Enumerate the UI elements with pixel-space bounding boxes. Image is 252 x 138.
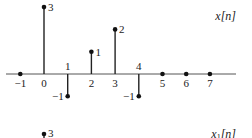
stem-dot	[65, 94, 70, 99]
n-tick-label: 0	[41, 77, 47, 89]
n-tick-label: 2	[89, 77, 95, 89]
stem-dot	[160, 72, 165, 77]
stem-dot	[89, 49, 94, 54]
stem-dot	[137, 94, 142, 99]
stem-dot	[18, 72, 23, 77]
value-label: −1	[52, 90, 64, 102]
value-label: 3	[48, 127, 54, 138]
stem-dot	[208, 72, 213, 77]
stem-dot	[184, 72, 189, 77]
n-tick-label: 6	[183, 77, 189, 89]
n-tick-label: −1	[14, 77, 26, 89]
stem-dot	[42, 132, 47, 137]
stem-dot	[42, 5, 47, 10]
stem-dot	[113, 27, 118, 32]
n-tick-label: 4	[136, 60, 142, 72]
stem-plot-x: −1031−121324−1567x[n]3x1[n]	[0, 0, 252, 138]
plot-title-x1: x1[n]	[210, 127, 236, 138]
n-tick-label: 1	[65, 60, 71, 72]
n-tick-label: 5	[160, 77, 166, 89]
value-label: 3	[48, 1, 54, 13]
n-tick-label: 3	[112, 77, 118, 89]
value-label: 2	[119, 23, 125, 35]
value-label: 1	[95, 46, 101, 58]
plot-title-x: x[n]	[214, 9, 236, 23]
n-tick-label: 7	[207, 77, 213, 89]
value-label: −1	[123, 90, 135, 102]
